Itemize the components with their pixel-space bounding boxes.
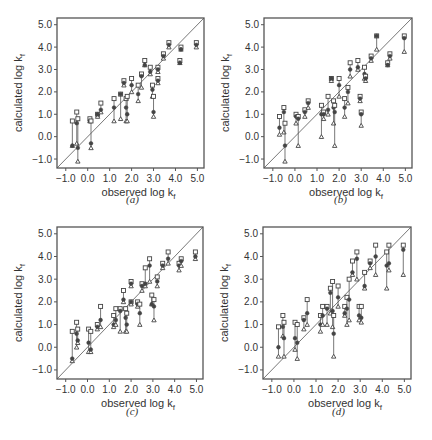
square-marker xyxy=(276,325,280,329)
triangle-marker xyxy=(295,357,299,361)
y-tick-label: −1.0 xyxy=(238,364,258,375)
square-marker xyxy=(347,277,351,281)
square-marker xyxy=(281,313,285,317)
y-tick-label: 1.0 xyxy=(244,319,258,330)
circle-marker xyxy=(295,341,299,345)
triangle-marker xyxy=(385,286,389,290)
square-marker xyxy=(401,243,405,247)
circle-marker xyxy=(345,307,349,311)
triangle-marker xyxy=(345,323,349,327)
data-point xyxy=(373,243,377,276)
triangle-marker xyxy=(368,266,372,270)
circle-marker xyxy=(328,291,332,295)
square-marker xyxy=(295,323,299,327)
square-marker xyxy=(363,270,367,274)
circle-marker xyxy=(359,316,363,320)
triangle-marker xyxy=(336,304,340,308)
triangle-marker xyxy=(347,318,351,322)
y-axis-title: calculated log kf xyxy=(218,263,233,342)
circle-marker xyxy=(282,336,286,340)
triangle-marker xyxy=(325,323,329,327)
square-marker xyxy=(328,286,332,290)
x-tick-label: 5.0 xyxy=(397,384,411,395)
square-marker xyxy=(385,250,389,254)
y-tick-label: 4.0 xyxy=(244,251,258,262)
triangle-marker xyxy=(276,354,280,358)
circle-marker xyxy=(321,314,325,318)
data-point xyxy=(281,313,285,337)
y-tick-label: 3.0 xyxy=(244,274,258,285)
circle-marker xyxy=(305,311,309,315)
triangle-marker xyxy=(282,354,286,358)
square-marker xyxy=(387,243,391,247)
data-point xyxy=(350,259,354,276)
y-tick-label: 0.0 xyxy=(244,342,258,353)
data-point xyxy=(305,298,309,327)
square-marker xyxy=(374,243,378,247)
square-marker xyxy=(282,320,286,324)
x-axis-title: observed log kf xyxy=(308,397,383,412)
triangle-marker xyxy=(330,325,334,329)
x-tick-label: 3.0 xyxy=(353,384,367,395)
square-marker xyxy=(332,313,336,317)
data-point xyxy=(276,325,280,358)
circle-marker xyxy=(293,336,297,340)
y-tick-label: 2.0 xyxy=(244,296,258,307)
data-point xyxy=(362,270,366,290)
data-point xyxy=(295,323,299,361)
square-marker xyxy=(331,279,335,283)
x-tick-label: −1.0 xyxy=(262,384,282,395)
triangle-marker xyxy=(387,268,391,272)
square-marker xyxy=(336,284,340,288)
triangle-marker xyxy=(331,354,335,358)
circle-marker xyxy=(325,307,329,311)
scatter-plot-d: −1.00.01.02.03.04.05.0−1.00.01.02.03.04.… xyxy=(0,0,432,440)
data-point xyxy=(347,277,351,322)
data-point xyxy=(401,243,405,276)
circle-marker xyxy=(351,270,355,274)
data-point xyxy=(336,284,340,308)
circle-marker xyxy=(374,255,378,259)
data-point xyxy=(368,259,372,270)
circle-marker xyxy=(332,332,336,336)
circle-marker xyxy=(368,261,372,265)
x-tick-label: 4.0 xyxy=(375,384,389,395)
data-point xyxy=(331,313,335,358)
triangle-marker xyxy=(318,329,322,333)
triangle-marker xyxy=(302,327,306,331)
square-marker xyxy=(359,304,363,308)
triangle-marker xyxy=(355,277,359,281)
square-marker xyxy=(350,259,354,263)
data-point xyxy=(355,250,359,281)
circle-marker xyxy=(347,298,351,302)
circle-marker xyxy=(343,311,347,315)
data-point xyxy=(343,304,347,317)
circle-marker xyxy=(331,309,335,313)
data-point xyxy=(302,316,306,331)
x-tick-label: 2.0 xyxy=(331,384,345,395)
square-marker xyxy=(305,298,309,302)
x-tick-label: 1.0 xyxy=(309,384,323,395)
y-tick-label: 5.0 xyxy=(244,228,258,239)
triangle-marker xyxy=(401,273,405,277)
circle-marker xyxy=(277,345,281,349)
circle-marker xyxy=(401,248,405,252)
x-tick-label: 0.0 xyxy=(287,384,301,395)
circle-marker xyxy=(387,261,391,265)
triangle-marker xyxy=(373,273,377,277)
square-marker xyxy=(321,304,325,308)
chart-panel-d: −1.00.01.02.03.04.05.0−1.00.01.02.03.04.… xyxy=(0,0,216,220)
circle-marker xyxy=(336,295,340,299)
circle-marker xyxy=(302,318,306,322)
panel-caption-d: (d) xyxy=(332,405,345,417)
square-marker xyxy=(355,250,359,254)
circle-marker xyxy=(363,284,367,288)
circle-marker xyxy=(355,257,359,261)
triangle-marker xyxy=(305,323,309,327)
